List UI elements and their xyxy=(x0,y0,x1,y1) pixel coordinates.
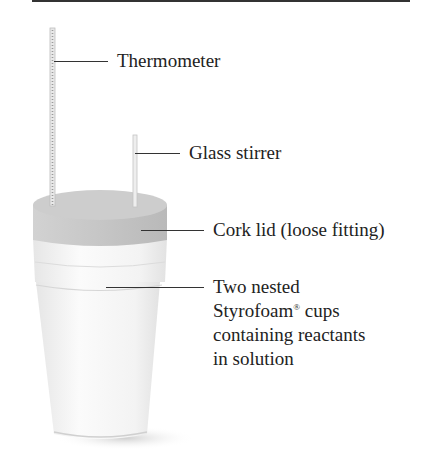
lid-leader xyxy=(141,230,204,231)
cups-text: cups xyxy=(300,300,340,321)
cups-label-line3: containing reactants xyxy=(213,323,365,347)
cups-label-line2: Styrofoam® cups xyxy=(213,299,365,323)
cups-leader xyxy=(106,287,204,288)
stirrer-leader xyxy=(135,153,180,154)
lid-label: Cork lid (loose fitting) xyxy=(213,219,385,241)
cups-label-line4: in solution xyxy=(213,347,365,371)
stirrer-label: Glass stirrer xyxy=(189,142,281,164)
cups-label-line1: Two nested xyxy=(213,275,365,299)
styrofoam-text: Styrofoam xyxy=(213,300,293,321)
thermometer-leader xyxy=(54,61,108,62)
thermometer-label: Thermometer xyxy=(117,50,220,72)
styrofoam-cups xyxy=(33,238,167,439)
cups-label: Two nested Styrofoam® cups containing re… xyxy=(213,275,365,371)
glass-stirrer xyxy=(133,135,137,207)
thermometer xyxy=(50,28,55,206)
